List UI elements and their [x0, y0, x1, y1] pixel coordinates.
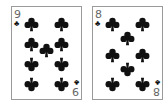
club-icon [135, 48, 150, 63]
card-rank-bottom: 8 [153, 86, 160, 97]
club-icon [120, 31, 135, 46]
club-icon: ♣ [95, 20, 100, 28]
club-icon [135, 77, 150, 92]
club-icon [24, 17, 39, 32]
club-icon [135, 17, 150, 32]
playing-card-8-of-clubs[interactable]: 8 ♣ ♣ 8 [92, 6, 163, 100]
club-icon [105, 48, 120, 63]
club-icon [120, 62, 135, 77]
club-icon [54, 77, 69, 92]
club-icon [54, 37, 69, 52]
club-icon [54, 57, 69, 72]
playing-card-9-of-clubs[interactable]: 9 ♣ ♣ 9 [11, 6, 82, 100]
club-icon [24, 57, 39, 72]
club-icon [105, 77, 120, 92]
club-icon [24, 77, 39, 92]
club-icon [105, 17, 120, 32]
club-icon [54, 17, 69, 32]
club-icon: ♣ [14, 20, 19, 28]
card-rank-bottom: 9 [72, 86, 79, 97]
club-icon [39, 43, 54, 58]
club-icon [24, 37, 39, 52]
